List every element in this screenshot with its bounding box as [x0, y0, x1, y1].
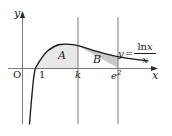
x-axis-label: x [152, 70, 158, 81]
region-label-b: B [93, 54, 101, 65]
figure-container: y x O 1 k e2 A B y = lnx x [0, 0, 172, 136]
equation-denominator: x [141, 55, 149, 66]
equation-fraction: lnx x [134, 42, 156, 65]
equation-numerator: lnx [136, 42, 153, 53]
y-axis-arrowhead [20, 11, 25, 18]
equation-lhs: y [118, 48, 124, 59]
x-tick-label-e-squared: e2 [111, 70, 121, 81]
curve-equation-label: y = lnx x [118, 42, 156, 65]
x-tick-label-1: 1 [39, 70, 45, 80]
y-axis-label: y [14, 8, 20, 19]
equation-numerator-variable: x [147, 41, 153, 52]
region-label-a: A [58, 50, 66, 61]
equation-ln-operator: ln [137, 41, 147, 52]
x-tick-label-k: k [75, 70, 81, 80]
shaded-region-a [36, 44, 79, 68]
origin-label: O [13, 70, 21, 80]
x-tick-e-exponent: 2 [117, 69, 121, 77]
equation-equals-sign: = [125, 48, 133, 59]
figure-graphic [0, 0, 172, 136]
